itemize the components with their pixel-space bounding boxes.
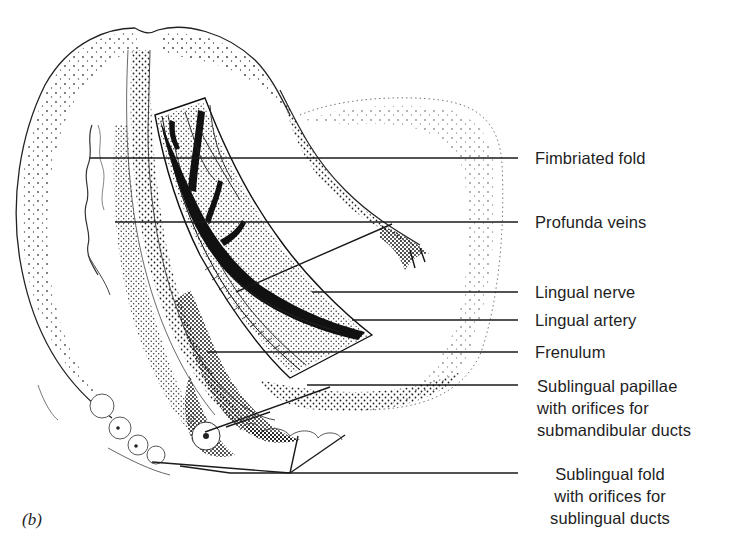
fimbriated-fold-structure [85, 125, 110, 295]
label-profunda-veins: Profunda veins [535, 212, 646, 232]
label-lingual-nerve: Lingual nerve [535, 282, 635, 302]
label-sublingual-papillae-line1: Sublingual papillae [537, 375, 691, 397]
label-sublingual-fold-line1: Sublingual fold [535, 463, 685, 485]
label-sublingual-papillae-line2: with orifices for [537, 397, 691, 419]
panel-label: (b) [22, 510, 42, 530]
label-sublingual-papillae-line3: submandibular ducts [537, 419, 691, 441]
label-lingual-artery: Lingual artery [535, 310, 636, 330]
label-sublingual-fold: Sublingual fold with orifices for sublin… [535, 463, 685, 529]
label-fimbriated-fold: Fimbriated fold [535, 148, 646, 168]
label-frenulum: Frenulum [535, 342, 606, 362]
label-sublingual-fold-line3: sublingual ducts [535, 507, 685, 529]
label-sublingual-papillae: Sublingual papillae with orifices for su… [537, 375, 691, 441]
label-sublingual-fold-line2: with orifices for [535, 485, 685, 507]
leader-sublingual-fold-c [290, 435, 345, 473]
